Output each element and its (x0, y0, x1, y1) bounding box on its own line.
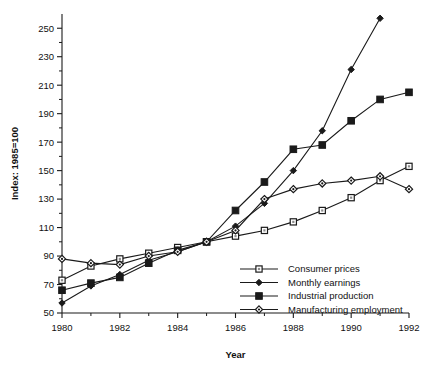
data-point-core (61, 279, 63, 281)
legend-marker-core (258, 308, 260, 310)
data-point-core (379, 175, 381, 177)
data-point (88, 280, 95, 287)
chart-figure: 5070901101301501701902102302501980198219… (0, 0, 424, 383)
y-tick-label: 50 (43, 307, 54, 318)
y-tick-label: 130 (38, 193, 54, 204)
x-tick-label: 1990 (341, 322, 362, 333)
y-tick-label: 230 (38, 51, 54, 62)
y-tick-label: 90 (43, 250, 54, 261)
data-point-core (119, 263, 121, 265)
y-tick-label: 150 (38, 165, 54, 176)
data-point-core (292, 188, 294, 190)
data-point (59, 300, 65, 306)
data-point-core (350, 179, 352, 181)
y-tick-label: 250 (38, 23, 54, 34)
line-chart: 5070901101301501701902102302501980198219… (0, 0, 424, 383)
legend-label: Consumer prices (288, 263, 360, 274)
data-point-core (90, 262, 92, 264)
series-line (62, 18, 380, 303)
x-tick-label: 1984 (167, 322, 188, 333)
series-line (62, 176, 409, 264)
x-tick-label: 1982 (109, 322, 130, 333)
legend-marker-core (258, 268, 260, 270)
data-point (319, 142, 326, 149)
data-point (145, 260, 152, 267)
data-point-core (292, 221, 294, 223)
data-point-core (205, 241, 207, 243)
data-point-core (408, 165, 410, 167)
data-point-core (408, 188, 410, 190)
y-tick-label: 70 (43, 279, 54, 290)
x-tick-label: 1980 (51, 322, 72, 333)
legend-marker (256, 293, 263, 300)
data-point (348, 117, 355, 124)
data-point-core (234, 235, 236, 237)
data-point-core (148, 255, 150, 257)
data-point (59, 287, 66, 294)
x-tick-label: 1988 (283, 322, 304, 333)
data-point (377, 15, 383, 21)
data-point (117, 274, 124, 281)
data-point-core (234, 229, 236, 231)
data-point-core (321, 209, 323, 211)
legend-label: Manufacturing employment (288, 304, 403, 315)
data-point (232, 207, 239, 214)
data-point (406, 89, 413, 96)
data-point (348, 66, 354, 72)
data-point (261, 179, 268, 186)
y-axis-title: Index: 1985=100 (9, 127, 20, 200)
data-point-core (263, 198, 265, 200)
series-manufacturing-employment (58, 173, 412, 268)
data-point-core (119, 258, 121, 260)
data-point-core (263, 229, 265, 231)
y-tick-label: 170 (38, 137, 54, 148)
chart-legend: Consumer pricesMonthly earningsIndustria… (240, 263, 403, 315)
y-tick-label: 190 (38, 108, 54, 119)
data-point (290, 146, 297, 153)
data-point-core (350, 197, 352, 199)
x-tick-label: 1986 (225, 322, 246, 333)
y-tick-label: 110 (39, 222, 54, 233)
data-point (377, 96, 384, 103)
x-tick-label: 1992 (398, 322, 419, 333)
legend-marker (256, 279, 262, 285)
legend-label: Monthly earnings (288, 277, 361, 288)
data-point-core (177, 251, 179, 253)
x-axis-title: Year (225, 349, 245, 360)
legend-label: Industrial production (288, 290, 374, 301)
data-point-core (321, 182, 323, 184)
y-tick-label: 210 (38, 80, 54, 91)
data-point-core (61, 258, 63, 260)
